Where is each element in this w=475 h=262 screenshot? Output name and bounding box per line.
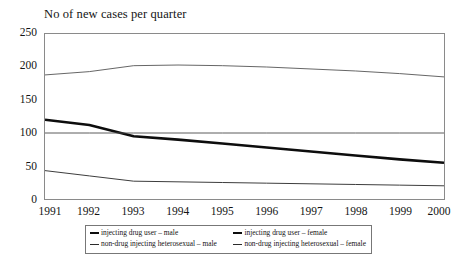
legend-item-label: injecting drug user – female: [244, 228, 327, 238]
legend-item[interactable]: non-drug injecting heterosexual – female: [233, 239, 367, 249]
legend-row: non-drug injecting heterosexual – maleno…: [90, 239, 367, 250]
series-line: [45, 120, 444, 163]
y-axis: 250200150100500: [0, 0, 44, 262]
chart-title: No of new cases per quarter: [44, 7, 187, 22]
chart-figure: No of new cases per quarter 250200150100…: [0, 0, 475, 262]
y-tick-label: 250: [20, 27, 37, 39]
plot-area: [44, 33, 445, 200]
x-tick-label: 1998: [344, 205, 367, 217]
x-tick-label: 1997: [300, 205, 323, 217]
legend-item-label: non-drug injecting heterosexual – female: [244, 239, 366, 249]
legend-item[interactable]: injecting drug user – female: [233, 228, 367, 238]
series-line: [45, 171, 444, 186]
legend-item[interactable]: injecting drug user – male: [90, 228, 233, 238]
legend-line-swatch-icon: [90, 232, 99, 234]
x-tick-label: 2000: [428, 205, 451, 217]
x-tick-label: 1999: [389, 205, 412, 217]
y-tick-label: 50: [26, 161, 38, 173]
y-tick-label: 0: [31, 194, 37, 206]
legend-line-swatch-icon: [233, 232, 242, 234]
x-tick-label: 1995: [211, 205, 234, 217]
y-tick-label: 200: [20, 60, 37, 72]
x-tick-label: 1994: [166, 205, 189, 217]
series-lines: [45, 34, 444, 199]
series-line: [45, 65, 444, 77]
legend-item[interactable]: non-drug injecting heterosexual – male: [90, 239, 233, 249]
legend-line-swatch-icon: [90, 244, 99, 245]
y-tick-label: 100: [20, 127, 37, 139]
legend-item-label: injecting drug user – male: [101, 228, 178, 238]
y-tick-label: 150: [20, 94, 37, 106]
chart-legend: injecting drug user – maleinjecting drug…: [85, 225, 372, 254]
x-tick-label: 1992: [77, 205, 100, 217]
x-tick-label: 1996: [255, 205, 278, 217]
x-axis: 1991199219931994199519961997199819992000: [44, 205, 445, 221]
x-tick-label: 1991: [39, 205, 62, 217]
legend-line-swatch-icon: [233, 244, 242, 245]
x-tick-label: 1993: [122, 205, 145, 217]
legend-item-label: non-drug injecting heterosexual – male: [101, 239, 217, 249]
legend-row: injecting drug user – maleinjecting drug…: [90, 228, 367, 239]
